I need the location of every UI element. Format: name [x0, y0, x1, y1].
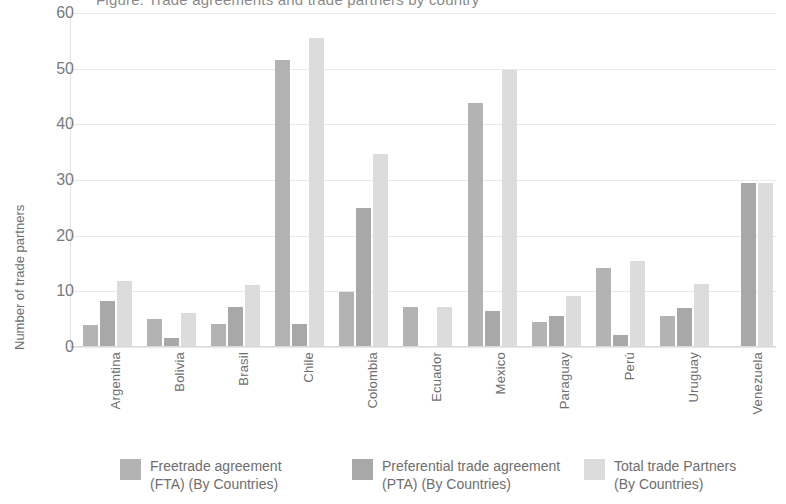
bar-fta: [275, 60, 290, 346]
bar-group: [328, 13, 392, 346]
legend-label-fta: Freetrade agreement (FTA) (By Countries): [150, 457, 282, 493]
bar-total: [181, 313, 196, 346]
x-tick-label-perú: Perú: [622, 352, 637, 380]
bar-total: [758, 183, 773, 346]
x-tick-label-chile: Chile: [301, 352, 316, 383]
bar-groups: [71, 13, 776, 346]
legend-label-total: Total trade Partners (By Countries): [614, 457, 736, 493]
bar-group: [456, 13, 520, 346]
y-tick-label-0: 0: [14, 338, 74, 356]
bar-fta: [532, 322, 547, 346]
x-tick-label-bolivia: Bolivia: [172, 352, 187, 392]
bar-pta: [613, 335, 628, 346]
x-tick-label-brasil: Brasil: [236, 352, 251, 386]
bar-total: [309, 38, 324, 346]
bar-fta: [339, 292, 354, 346]
bar-pta: [485, 311, 500, 346]
bar-pta: [356, 208, 371, 346]
bar-fta: [147, 319, 162, 346]
legend-swatch-pta-icon: [352, 459, 373, 480]
x-axis-ticks: ArgentinaBoliviaBrasilChileColombiaEcuad…: [70, 352, 776, 452]
x-tick-label-colombia: Colombia: [365, 352, 380, 409]
bar-fta: [468, 103, 483, 346]
bar-total: [694, 284, 709, 346]
bar-total: [630, 261, 645, 346]
bar-pta: [741, 183, 756, 346]
x-tick-label-mexico: Mexico: [493, 352, 508, 394]
bar-fta: [211, 324, 226, 346]
x-tick-label-venezuela: Venezuela: [750, 352, 765, 415]
bar-pta: [549, 316, 564, 346]
bar-pta: [292, 324, 307, 346]
bar-total: [566, 296, 581, 346]
bar-fta: [403, 307, 418, 346]
bar-fta: [596, 268, 611, 346]
bar-total: [437, 307, 452, 346]
bar-pta: [164, 338, 179, 346]
bar-total: [373, 154, 388, 346]
bar-group: [649, 13, 713, 346]
plot-area: [70, 13, 776, 347]
bar-chart: Figure: Trade agreements and trade partn…: [0, 0, 786, 504]
bar-group: [584, 13, 648, 346]
y-tick-label-20: 20: [14, 227, 74, 245]
legend-item-pta[interactable]: Preferential trade agreement (PTA) (By C…: [352, 457, 560, 493]
legend-swatch-total-icon: [584, 459, 605, 480]
chart-legend: Freetrade agreement (FTA) (By Countries)…: [0, 455, 786, 504]
x-tick-label-argentina: Argentina: [108, 352, 123, 409]
x-tick-label-paraguay: Paraguay: [557, 352, 572, 409]
bar-group: [199, 13, 263, 346]
bar-pta: [228, 307, 243, 346]
legend-swatch-fta-icon: [120, 459, 141, 480]
y-tick-label-60: 60: [14, 4, 74, 22]
bar-total: [117, 281, 132, 346]
bar-pta: [677, 308, 692, 346]
y-tick-label-10: 10: [14, 282, 74, 300]
bar-group: [392, 13, 456, 346]
x-tick-label-ecuador: Ecuador: [429, 352, 444, 402]
bar-group: [520, 13, 584, 346]
bar-total: [245, 285, 260, 346]
bar-fta: [660, 316, 675, 346]
bar-group: [71, 13, 135, 346]
y-tick-label-50: 50: [14, 60, 74, 78]
chart-title: Figure: Trade agreements and trade partn…: [96, 0, 480, 8]
legend-label-pta: Preferential trade agreement (PTA) (By C…: [382, 457, 560, 493]
bar-total: [502, 70, 517, 346]
y-tick-label-30: 30: [14, 171, 74, 189]
x-tick-label-uruguay: Uruguay: [686, 352, 701, 403]
bar-group: [135, 13, 199, 346]
legend-item-fta[interactable]: Freetrade agreement (FTA) (By Countries): [120, 457, 282, 493]
bar-group: [713, 13, 777, 346]
gridline-0: [70, 347, 776, 348]
legend-item-total[interactable]: Total trade Partners (By Countries): [584, 457, 736, 493]
bar-group: [264, 13, 328, 346]
bar-fta: [83, 325, 98, 346]
bar-pta: [100, 301, 115, 346]
y-tick-label-40: 40: [14, 115, 74, 133]
